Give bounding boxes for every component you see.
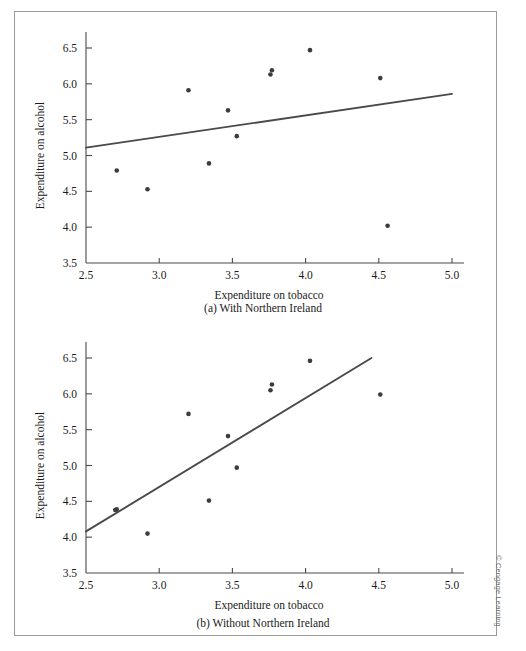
x-tick-label: 5.0 <box>445 269 460 281</box>
y-tick-label: 6.0 <box>63 388 78 400</box>
data-point <box>268 388 273 393</box>
y-tick-label: 5.5 <box>63 114 78 126</box>
x-tick-label: 4.0 <box>298 579 313 591</box>
data-point <box>234 465 239 470</box>
y-tick-label: 5.0 <box>63 460 78 472</box>
chart-panel-b: 3.54.04.55.05.56.06.52.53.03.54.04.55.0E… <box>0 326 526 641</box>
x-axis-title: Expenditure on tobacco <box>214 289 323 301</box>
y-axis-title: Expenditure on alcohol <box>34 102 47 209</box>
y-tick-label: 5.0 <box>63 150 78 162</box>
y-tick-label: 4.0 <box>63 221 78 233</box>
data-point <box>226 434 231 439</box>
data-point <box>114 168 119 173</box>
chart-panel-a: 3.54.04.55.05.56.06.52.53.03.54.04.55.0E… <box>0 16 526 321</box>
x-tick-label: 2.5 <box>79 579 94 591</box>
data-point <box>308 359 313 364</box>
y-tick-label: 3.5 <box>63 567 78 579</box>
y-tick-label: 6.5 <box>63 352 78 364</box>
x-tick-label: 5.0 <box>445 579 460 591</box>
x-tick-label: 4.5 <box>372 579 387 591</box>
x-tick-label: 3.5 <box>225 269 240 281</box>
y-tick-label: 5.5 <box>63 424 78 436</box>
data-point <box>186 412 191 417</box>
scatter-plot-b: 3.54.04.55.05.56.06.52.53.03.54.04.55.0E… <box>0 326 526 611</box>
scatter-plot-a: 3.54.04.55.05.56.06.52.53.03.54.04.55.0E… <box>0 16 526 301</box>
x-tick-label: 3.0 <box>152 579 167 591</box>
data-point <box>234 134 239 139</box>
caption-b: (b) Without Northern Ireland <box>0 617 526 629</box>
regression-line <box>86 94 452 148</box>
data-point <box>378 392 383 397</box>
x-tick-label: 3.5 <box>225 579 240 591</box>
data-point <box>308 48 313 53</box>
figure-root: 3.54.04.55.05.56.06.52.53.03.54.04.55.0E… <box>0 0 526 651</box>
x-tick-label: 4.0 <box>298 269 313 281</box>
x-tick-label: 2.5 <box>79 269 94 281</box>
y-tick-label: 4.0 <box>63 531 78 543</box>
data-point <box>145 187 150 192</box>
x-tick-label: 4.5 <box>372 269 387 281</box>
data-point <box>226 108 231 113</box>
y-tick-label: 3.5 <box>63 257 78 269</box>
data-point <box>270 382 275 387</box>
data-point <box>270 68 275 73</box>
y-tick-label: 4.5 <box>63 495 78 507</box>
y-tick-label: 4.5 <box>63 185 78 197</box>
caption-a: (a) With Northern Ireland <box>0 302 526 314</box>
x-tick-label: 3.0 <box>152 269 167 281</box>
y-tick-label: 6.0 <box>63 78 78 90</box>
data-point <box>378 76 383 81</box>
y-tick-label: 6.5 <box>63 42 78 54</box>
data-point <box>207 498 212 503</box>
regression-line <box>86 358 371 531</box>
data-point <box>385 223 390 228</box>
data-point <box>268 72 273 77</box>
data-point <box>207 161 212 166</box>
y-axis-title: Expenditure on alcohol <box>34 412 47 519</box>
x-axis-title: Expenditure on tobacco <box>214 599 323 611</box>
copyright-credit: © Cengage Learning <box>494 555 503 627</box>
data-point <box>145 531 150 536</box>
data-point <box>186 88 191 93</box>
data-point <box>114 507 119 512</box>
